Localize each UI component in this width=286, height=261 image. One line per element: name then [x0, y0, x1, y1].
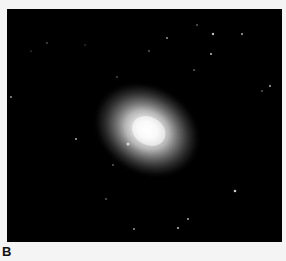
star: [210, 53, 212, 55]
star: [105, 198, 107, 200]
star: [212, 33, 214, 35]
star: [75, 138, 77, 140]
star: [261, 90, 263, 92]
star: [30, 50, 31, 51]
star: [112, 164, 114, 166]
star: [127, 143, 130, 146]
star: [234, 190, 237, 193]
star: [133, 228, 135, 230]
galaxy-photo: [7, 9, 282, 242]
star: [46, 42, 47, 43]
star: [193, 69, 195, 71]
star: [196, 24, 198, 26]
star: [187, 218, 189, 220]
star: [166, 37, 168, 39]
star: [116, 76, 117, 77]
star: [84, 44, 85, 45]
star: [10, 96, 12, 98]
sky-image: [7, 9, 282, 242]
star: [241, 33, 243, 35]
star: [269, 85, 271, 87]
star: [148, 50, 150, 52]
star: [177, 227, 179, 229]
panel-label: B: [2, 245, 11, 259]
